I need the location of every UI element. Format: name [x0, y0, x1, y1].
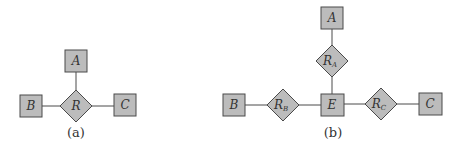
entity-c: C — [419, 93, 442, 115]
entity-c: C — [114, 94, 136, 116]
entity-e: E — [321, 94, 344, 116]
svg-text:B: B — [26, 99, 36, 113]
svg-text:C: C — [425, 97, 434, 111]
entity-b: B — [223, 94, 245, 116]
relationship-r: R — [60, 90, 92, 122]
diagram-b: A B E C RA RB RC — [223, 7, 442, 140]
diagram-a: A B C R (a) — [20, 50, 136, 140]
relationship-rc: RC — [365, 88, 397, 120]
svg-text:A: A — [71, 54, 81, 68]
er-diagrams: A B C R (a) A B E — [0, 0, 460, 156]
entity-a: A — [65, 50, 87, 72]
relationship-ra: RA — [316, 45, 348, 77]
svg-text:R: R — [70, 99, 80, 113]
entity-b: B — [20, 95, 42, 117]
svg-text:A: A — [327, 11, 337, 25]
entity-a: A — [321, 7, 343, 29]
caption-a: (a) — [67, 125, 85, 140]
svg-text:C: C — [120, 98, 129, 112]
caption-b: (b) — [324, 125, 342, 140]
svg-text:B: B — [229, 98, 239, 112]
svg-text:E: E — [327, 98, 337, 112]
relationship-rb: RB — [267, 89, 299, 121]
